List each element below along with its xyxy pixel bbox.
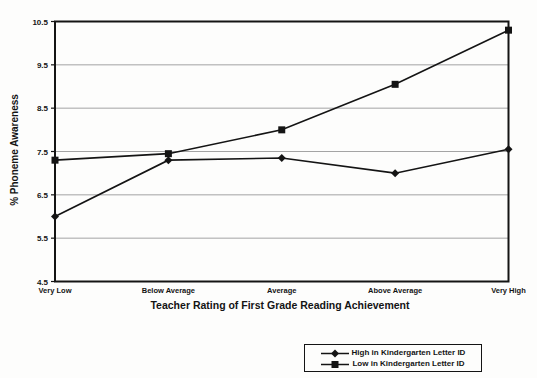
- y-tick-label: 10.5: [32, 18, 48, 27]
- y-tick-label: 9.5: [37, 61, 49, 70]
- legend-label-high: High in Kindergarten Letter ID: [352, 348, 466, 358]
- diamond-marker: [164, 156, 172, 164]
- square-marker: [52, 157, 59, 164]
- y-tick-label: 8.5: [37, 104, 49, 113]
- square-marker: [505, 27, 512, 34]
- square-marker: [278, 126, 285, 133]
- x-category-label: Average: [267, 286, 296, 295]
- square-marker: [392, 81, 399, 88]
- x-axis-title: Teacher Rating of First Grade Reading Ac…: [150, 299, 409, 311]
- square-marker-icon: [321, 360, 349, 369]
- legend: High in Kindergarten Letter ID Low in Ki…: [304, 344, 482, 372]
- y-tick-label: 7.5: [37, 148, 49, 157]
- x-category-label: Below Average: [142, 286, 195, 295]
- phoneme-awareness-line-chart: 4.55.56.57.58.59.510.5Very LowBelow Aver…: [0, 0, 537, 378]
- legend-label-low: Low in Kindergarten Letter ID: [352, 359, 464, 369]
- y-axis-title: % Phoneme Awareness: [9, 94, 20, 206]
- legend-item-low: Low in Kindergarten Letter ID: [321, 359, 464, 369]
- diamond-marker: [278, 154, 286, 162]
- square-marker: [165, 150, 172, 157]
- legend-item-high: High in Kindergarten Letter ID: [321, 348, 466, 358]
- chart-plot-area: 4.55.56.57.58.59.510.5Very LowBelow Aver…: [0, 0, 537, 378]
- y-tick-label: 5.5: [37, 234, 49, 243]
- diamond-marker: [505, 145, 513, 153]
- x-category-label: Very High: [491, 286, 526, 295]
- diamond-marker-icon: [321, 349, 349, 358]
- series-line-low: [55, 30, 509, 160]
- x-category-label: Very Low: [39, 286, 72, 295]
- x-category-label: Above Average: [368, 286, 422, 295]
- y-tick-label: 6.5: [37, 191, 49, 200]
- diamond-marker: [51, 213, 59, 221]
- diamond-marker: [391, 169, 399, 177]
